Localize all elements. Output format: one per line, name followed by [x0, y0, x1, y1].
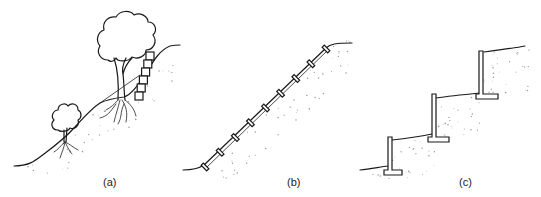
panel-b: (b): [183, 40, 352, 188]
stipple-dot: [297, 109, 298, 110]
stipple-dot: [32, 165, 33, 166]
stipple-dot: [443, 124, 444, 125]
stipple-dot: [295, 119, 297, 121]
stipple-dot: [255, 131, 257, 133]
panel-a: (a): [14, 11, 180, 188]
stipple-dot: [147, 86, 148, 87]
stipple-dot: [310, 70, 311, 71]
stipple-dot: [47, 173, 48, 174]
stipple-dot: [237, 172, 238, 173]
stipple-dot: [428, 150, 429, 151]
stipple-dot: [494, 52, 495, 53]
terrace-surface-middle: [392, 134, 432, 140]
stipple-dot: [471, 116, 472, 117]
stipple-dot: [113, 129, 114, 130]
stipple-dot: [293, 99, 295, 101]
stipple-dot: [399, 168, 400, 169]
stipple-dot: [129, 120, 130, 121]
stipple-dot: [108, 130, 109, 131]
stipple-dot: [421, 148, 422, 149]
stipple-dot: [415, 153, 416, 154]
stipple-dot: [92, 114, 94, 116]
stipple-dot: [517, 52, 518, 53]
stipple-dot: [516, 53, 517, 54]
stipple-dot: [447, 124, 448, 125]
wall-block: [137, 84, 145, 92]
stipple-dot: [348, 40, 349, 41]
stipple-dot: [33, 170, 34, 171]
stipple-dot: [331, 71, 332, 72]
stipple-dot: [471, 97, 473, 99]
stipple-dot: [277, 117, 279, 119]
stipple-dot: [314, 72, 315, 73]
stipple-dot: [221, 170, 222, 171]
stipple-dot: [277, 134, 278, 135]
stipple-dot: [422, 174, 423, 175]
panel-label-a: (a): [103, 176, 116, 188]
stipple-dot: [232, 163, 233, 164]
stipple-dot: [493, 76, 495, 78]
stipple-dot: [491, 89, 492, 90]
stipple-dot: [493, 92, 494, 93]
stipple-dot: [464, 128, 465, 129]
stipple-dot: [372, 174, 373, 175]
stipple-dot: [433, 165, 434, 166]
stipple-dot: [448, 117, 449, 118]
stipple-dot: [171, 80, 173, 82]
stipple-dot: [401, 151, 402, 152]
stipple-dot: [380, 175, 381, 176]
stipple-dot: [441, 107, 442, 108]
stipple-dot: [234, 170, 235, 171]
stipple-dot: [226, 177, 227, 178]
panel-label-c: (c): [459, 176, 472, 188]
slope-anchor: [307, 60, 315, 68]
stipple-dot: [451, 126, 452, 127]
stipple-dot: [410, 172, 411, 173]
stipple-dot: [255, 155, 256, 156]
retaining-wall-1: [384, 137, 402, 175]
stipple-dot: [231, 160, 232, 161]
stipple-dot: [420, 141, 421, 142]
stipple-dot: [163, 70, 164, 71]
stipple-dot: [246, 163, 247, 164]
stipple-dot: [457, 110, 458, 111]
stipple-dot: [524, 66, 525, 67]
stipple-dot: [323, 93, 324, 94]
slope-anchor: [247, 119, 255, 127]
stipple-dot: [394, 157, 395, 158]
anchor-elements: [201, 45, 330, 171]
terrace-surface-top: [484, 46, 525, 52]
stipple-dot: [492, 67, 494, 69]
stipple-dot: [333, 46, 334, 47]
wall-block: [144, 60, 152, 68]
stipple-dot: [528, 66, 529, 67]
stipple-dot: [247, 131, 248, 132]
stipple-dot: [492, 81, 493, 82]
stipple-dot: [338, 53, 339, 54]
stipple-dot: [322, 73, 324, 75]
stipple-dot: [68, 162, 69, 163]
stipple-dot: [444, 134, 445, 135]
stipple-dot: [318, 77, 320, 79]
stipple-dot: [266, 114, 267, 115]
stipple-dot: [88, 134, 89, 135]
stipple-dot: [409, 147, 410, 148]
wall-block: [146, 52, 154, 60]
stipple-dot: [289, 107, 290, 108]
stipple-dot: [515, 71, 516, 72]
stipple-dot: [484, 80, 485, 81]
stipple-dot: [160, 62, 161, 63]
stipple-soil-c: [372, 49, 529, 179]
stipple-dot: [171, 72, 172, 73]
small-shrub: [52, 104, 81, 158]
stipple-dot: [346, 41, 347, 42]
stipple-dot: [428, 155, 430, 157]
stipple-dot: [138, 102, 139, 103]
stipple-dot: [233, 174, 234, 175]
stipple-dot: [98, 115, 99, 116]
ground-line-a: [14, 45, 180, 166]
ground-line-b: [183, 43, 352, 170]
stipple-dot: [172, 65, 173, 66]
stipple-dot: [377, 174, 379, 176]
stipple-dot: [100, 125, 101, 126]
